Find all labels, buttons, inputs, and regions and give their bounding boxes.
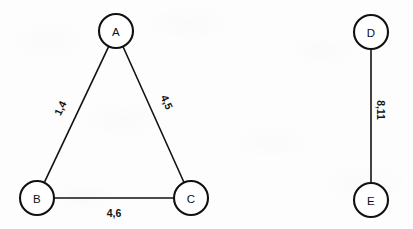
graph-node-b: B <box>20 181 54 215</box>
edge-label-a-b: 1,4 <box>52 99 69 117</box>
graph-node-c: C <box>174 181 208 215</box>
node-label-e: E <box>367 195 375 207</box>
graph-edge-a-c <box>123 47 184 183</box>
graph-edge-a-b <box>44 46 108 182</box>
node-label-a: A <box>112 26 120 38</box>
edge-label-d-e: 8,11 <box>375 100 387 120</box>
edges-layer <box>44 46 371 198</box>
graph-node-d: D <box>354 15 388 49</box>
graph-node-a: A <box>99 14 133 48</box>
edge-labels-layer: 1,44,54,68,11 <box>52 93 387 219</box>
node-label-d: D <box>367 27 376 39</box>
diagram-canvas: ABCDE 1,44,54,68,11 <box>0 0 413 229</box>
node-label-c: C <box>187 193 196 205</box>
edge-label-b-c: 4,6 <box>107 207 122 219</box>
graph-node-e: E <box>354 183 388 217</box>
edge-label-a-c: 4,5 <box>159 93 176 111</box>
node-label-b: B <box>33 193 41 205</box>
graph-diagram: ABCDE 1,44,54,68,11 <box>0 0 413 229</box>
